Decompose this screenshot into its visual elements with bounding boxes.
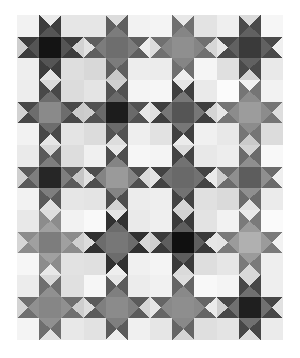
quilt-center-square	[239, 297, 261, 319]
quilt-corner-square-tr	[128, 80, 150, 102]
quilt-block	[17, 145, 84, 210]
quilt-corner-square-tl	[84, 15, 106, 37]
quilt-corner-square-bl	[217, 318, 239, 340]
quilt-corner-square-tr	[61, 15, 83, 37]
quilt-corner-square-tl	[217, 145, 239, 167]
quilt-block	[17, 210, 84, 275]
quilt-corner-square-tr	[194, 275, 216, 297]
quilt-corner-square-tl	[217, 210, 239, 232]
quilt-center-square	[106, 102, 128, 124]
quilt-corner-square-tr	[261, 275, 283, 297]
quilt-corner-square-br	[61, 253, 83, 275]
quilt-corner-square-br	[61, 58, 83, 80]
quilt-corner-square-br	[128, 253, 150, 275]
quilt-corner-square-bl	[17, 318, 39, 340]
quilt-center-square	[106, 297, 128, 319]
quilt-block	[217, 15, 284, 80]
quilt-corner-square-tr	[194, 80, 216, 102]
quilt-block	[150, 210, 217, 275]
quilt-corner-square-tl	[150, 145, 172, 167]
quilt-block	[217, 145, 284, 210]
quilt-center-square	[239, 232, 261, 254]
quilt-corner-square-bl	[84, 318, 106, 340]
quilt-corner-square-bl	[217, 188, 239, 210]
quilt-corner-square-tl	[84, 80, 106, 102]
quilt-center-square	[172, 167, 194, 189]
quilt-corner-square-bl	[17, 58, 39, 80]
quilt-block	[217, 275, 284, 340]
quilt-block	[84, 15, 151, 80]
quilt-corner-square-br	[194, 318, 216, 340]
quilt-center-square	[172, 102, 194, 124]
quilt-corner-square-br	[128, 188, 150, 210]
quilt-corner-square-tr	[261, 80, 283, 102]
quilt-corner-square-br	[261, 253, 283, 275]
quilt-corner-square-br	[261, 58, 283, 80]
quilt-block	[17, 80, 84, 145]
quilt-corner-square-tr	[61, 145, 83, 167]
quilt-corner-square-bl	[84, 188, 106, 210]
quilt-corner-square-tl	[17, 15, 39, 37]
quilt-corner-square-tr	[194, 15, 216, 37]
quilt-corner-square-br	[261, 188, 283, 210]
quilt-corner-square-tr	[194, 145, 216, 167]
quilt-corner-square-tl	[17, 210, 39, 232]
quilt-center-square	[239, 37, 261, 59]
quilt-block	[150, 15, 217, 80]
quilt-center-square	[39, 167, 61, 189]
quilt-block	[150, 80, 217, 145]
quilt-corner-square-tr	[261, 15, 283, 37]
quilt-corner-square-bl	[150, 123, 172, 145]
quilt-corner-square-tl	[217, 275, 239, 297]
quilt-corner-square-tr	[261, 145, 283, 167]
quilt-center-square	[239, 167, 261, 189]
quilt-center-square	[39, 37, 61, 59]
quilt-block	[84, 210, 151, 275]
quilt-center-square	[39, 102, 61, 124]
quilt-corner-square-bl	[150, 188, 172, 210]
quilt-corner-square-br	[61, 318, 83, 340]
quilt-corner-square-tl	[150, 275, 172, 297]
quilt-corner-square-br	[128, 123, 150, 145]
quilt-corner-square-tl	[150, 15, 172, 37]
quilt-corner-square-tl	[150, 210, 172, 232]
quilt-center-square	[106, 232, 128, 254]
quilt-corner-square-tl	[17, 275, 39, 297]
quilt-corner-square-bl	[17, 188, 39, 210]
quilt-corner-square-bl	[217, 123, 239, 145]
quilt-corner-square-bl	[17, 123, 39, 145]
quilt-block	[84, 80, 151, 145]
quilt-corner-square-tl	[84, 210, 106, 232]
quilt-center-square	[172, 232, 194, 254]
quilt-corner-square-tl	[217, 80, 239, 102]
quilt-corner-square-tr	[261, 210, 283, 232]
quilt-block-group	[17, 15, 283, 340]
quilt-corner-square-bl	[84, 123, 106, 145]
quilt-corner-square-tr	[128, 15, 150, 37]
quilt-block	[217, 80, 284, 145]
quilt-corner-square-br	[194, 58, 216, 80]
quilt-corner-square-br	[128, 58, 150, 80]
quilt-block	[17, 15, 84, 80]
quilt-center-square	[239, 102, 261, 124]
quilt-block	[150, 145, 217, 210]
quilt-corner-square-tr	[128, 145, 150, 167]
quilt-block	[217, 210, 284, 275]
quilt-center-square	[172, 37, 194, 59]
quilt-block	[150, 275, 217, 340]
quilt-center-square	[106, 167, 128, 189]
quilt-corner-square-tr	[61, 80, 83, 102]
quilt-corner-square-tl	[150, 80, 172, 102]
quilt-block	[84, 145, 151, 210]
quilt-corner-square-bl	[84, 58, 106, 80]
quilt-corner-square-br	[261, 318, 283, 340]
quilt-block	[17, 275, 84, 340]
quilt-corner-square-br	[261, 123, 283, 145]
quilt-corner-square-bl	[17, 253, 39, 275]
quilt-corner-square-br	[61, 188, 83, 210]
quilt-corner-square-tl	[84, 145, 106, 167]
quilt-center-square	[172, 297, 194, 319]
quilt-corner-square-bl	[150, 253, 172, 275]
quilt-block	[84, 275, 151, 340]
quilt-corner-square-br	[194, 188, 216, 210]
